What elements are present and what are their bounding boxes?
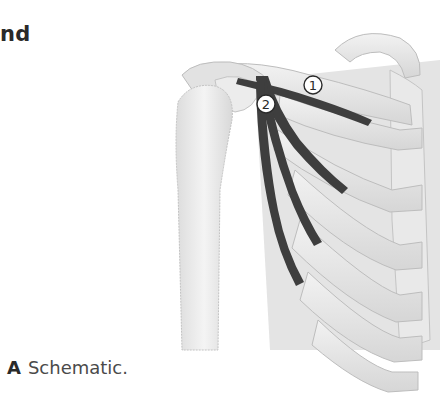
section-heading: nd — [0, 22, 30, 46]
caption-text: Schematic. — [28, 357, 128, 378]
shoulder-ribcage-illustration: 1 2 — [160, 20, 440, 396]
marker-1: 1 — [304, 76, 322, 94]
anatomy-figure: 1 2 — [160, 20, 440, 396]
caption-label: A — [7, 357, 21, 378]
figure-caption: ASchematic. — [7, 357, 128, 378]
humerus — [176, 85, 232, 350]
svg-text:1: 1 — [309, 78, 317, 93]
svg-text:2: 2 — [262, 97, 270, 112]
marker-2: 2 — [257, 95, 275, 113]
